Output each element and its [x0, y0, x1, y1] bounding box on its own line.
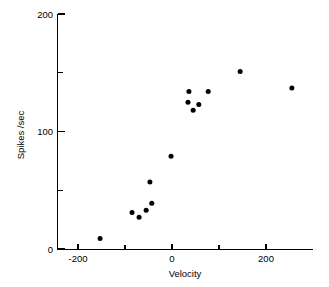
data-point [144, 208, 149, 213]
y-tick-label: 200 [37, 9, 53, 20]
data-point [196, 102, 201, 107]
data-point [147, 180, 152, 185]
y-axis-ticks [58, 14, 65, 249]
x-axis-title: Velocity [169, 268, 202, 279]
data-point [186, 89, 191, 94]
x-axis-ticks [78, 244, 266, 250]
plot-canvas: 0100200 -2000200 Velocity Spikes /sec [0, 0, 329, 287]
x-axis-tick-labels: -2000200 [68, 253, 273, 264]
y-axis-title: Spikes /sec [15, 110, 26, 159]
data-point [238, 69, 243, 74]
y-tick-label: 0 [48, 244, 53, 255]
data-point [289, 86, 294, 91]
scatter-plot-figure: 0100200 -2000200 Velocity Spikes /sec [0, 0, 329, 287]
data-points-group [98, 69, 295, 241]
data-point [98, 236, 103, 241]
data-point [206, 89, 211, 94]
y-axis-tick-labels: 0100200 [37, 9, 53, 255]
x-tick-label: -200 [68, 253, 87, 264]
y-tick-label: 100 [37, 126, 53, 137]
data-point [169, 154, 174, 159]
data-point [185, 100, 190, 105]
data-point [191, 108, 196, 113]
data-point [137, 215, 142, 220]
x-tick-label: 0 [169, 253, 174, 264]
data-point [149, 201, 154, 206]
x-tick-label: 200 [258, 253, 274, 264]
data-point [130, 210, 135, 215]
